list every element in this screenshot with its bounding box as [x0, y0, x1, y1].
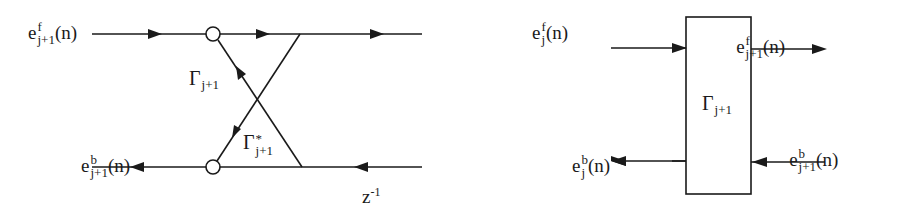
block-label-gamma: Γj+1 [702, 93, 732, 113]
arrow-right-icon [812, 44, 827, 54]
label-forward-output: efj(n) [532, 22, 568, 48]
diagram-canvas [0, 0, 908, 211]
arrow-right-icon [370, 29, 384, 39]
label-delay: z-1 [362, 186, 380, 206]
arrow-left-icon [130, 162, 144, 172]
arrow-up-left-icon [236, 66, 246, 80]
arrow-right-icon [672, 43, 687, 53]
label-forward-input: efj+1(n) [28, 22, 77, 48]
summing-node-bottom [206, 160, 220, 174]
block-label-backward-output: ebj+1(n) [789, 149, 838, 175]
block-label-forward-input: efj+1(n) [736, 36, 785, 62]
label-gamma: Γj+1 [189, 68, 219, 88]
label-backward-input: ebj(n) [572, 155, 610, 181]
summing-node-top [206, 27, 220, 41]
arrow-left-icon [354, 162, 368, 172]
label-gamma-conj: Γ*j+1 [243, 132, 273, 157]
arrow-left-icon [752, 157, 767, 167]
arrow-right-icon [256, 29, 270, 39]
arrow-right-icon [148, 29, 162, 39]
label-backward-output: ebj+1(n) [81, 155, 130, 181]
